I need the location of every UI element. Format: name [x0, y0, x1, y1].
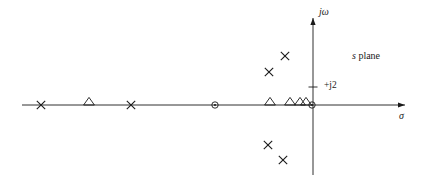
plot-canvas	[0, 0, 423, 182]
sigma-axis-label: σ	[399, 111, 404, 121]
poles-marker-4	[264, 141, 272, 149]
axes-group	[22, 18, 405, 175]
jomega-axis-arrowhead	[310, 18, 315, 25]
zeros-triangle-marker-1	[265, 97, 276, 105]
zeros-triangle-marker-0	[84, 97, 95, 105]
zeros-triangle-marker-2	[285, 97, 296, 105]
poles-marker-5	[279, 156, 287, 164]
s-plane-pole-zero-figure: jω σ +j2 s plane	[0, 0, 423, 182]
poles-marker-2	[281, 52, 289, 60]
s-plane-rest: plane	[356, 50, 380, 61]
markers-group	[37, 52, 315, 164]
sigma-axis-arrowhead	[398, 102, 405, 107]
jomega-axis-label: jω	[319, 7, 329, 17]
poles-marker-3	[265, 68, 273, 76]
s-plane-annotation: s plane	[352, 51, 380, 61]
imaginary-tick-label-j2: +j2	[324, 81, 337, 91]
